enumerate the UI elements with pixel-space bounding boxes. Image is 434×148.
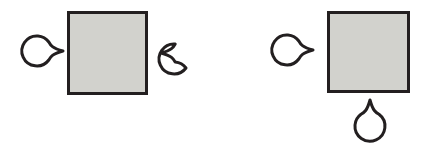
- circle-left-inner-right-path: [159, 44, 186, 74]
- circle-right-outer-left-path: [272, 35, 313, 65]
- circle-right-bottom-path: [355, 100, 385, 141]
- circle-right-bottom: [355, 100, 385, 141]
- figure-svg: [0, 0, 434, 148]
- square-right: [329, 13, 409, 92]
- configuration-left: [22, 13, 186, 94]
- circle-left-outer-path: [22, 36, 63, 66]
- circle-left-inner-right: [159, 44, 186, 74]
- square-left: [69, 13, 147, 94]
- circle-left-outer: [22, 36, 63, 66]
- figure-canvas: [0, 0, 434, 148]
- circle-right-outer-left: [272, 35, 313, 65]
- configuration-right: [272, 13, 409, 142]
